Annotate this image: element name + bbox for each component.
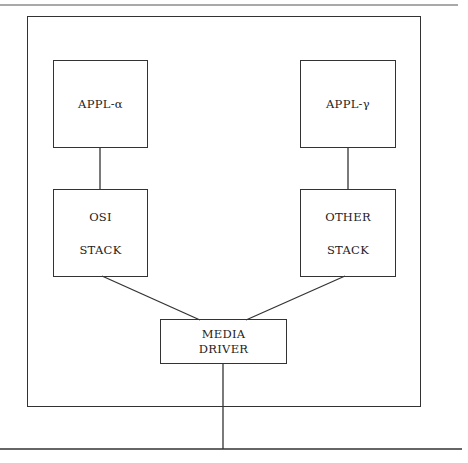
other-stack-line1: OTHER: [325, 210, 371, 224]
other-stack-line2: STACK: [327, 243, 369, 257]
appl-gamma-label: APPL-γ: [326, 97, 370, 111]
osi-stack-line1: OSI: [89, 210, 112, 224]
appl-gamma-box: APPL-γ: [300, 60, 396, 148]
media-driver-line1: MEDIA: [202, 327, 246, 341]
media-driver-box: MEDIA DRIVER: [160, 319, 287, 364]
appl-alpha-label: APPL-α: [78, 97, 123, 111]
osi-stack-line2: STACK: [79, 243, 121, 257]
media-driver-line2: DRIVER: [199, 342, 249, 356]
other-stack-box: OTHER STACK: [300, 189, 396, 277]
osi-stack-box: OSI STACK: [53, 189, 148, 277]
appl-alpha-box: APPL-α: [53, 60, 148, 148]
